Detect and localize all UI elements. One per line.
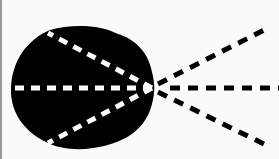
outer-ray-lower: [158, 92, 270, 147]
diagram-canvas: [0, 0, 279, 159]
outer-ray-upper: [158, 27, 270, 84]
outer-dashes: [158, 27, 279, 147]
